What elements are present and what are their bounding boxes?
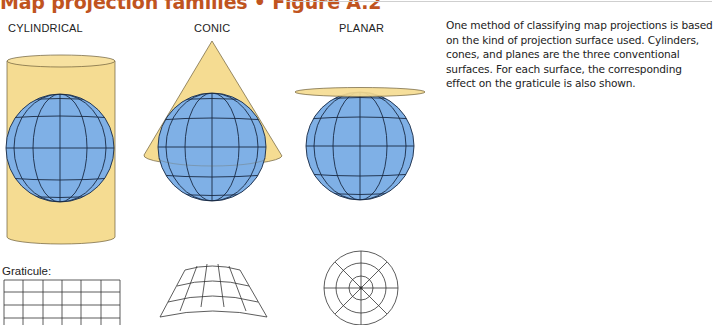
plane-surface [295,88,425,97]
graticule-conic [160,264,267,317]
graticule-cylindrical [4,280,120,325]
globe-cylindrical [6,94,114,202]
graticule-planar [324,251,398,325]
globe-conic [158,93,266,201]
globe-planar [306,92,414,200]
